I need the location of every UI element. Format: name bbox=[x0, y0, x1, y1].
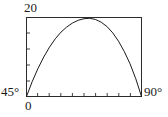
x-min-label: 45° bbox=[1, 85, 19, 98]
x-max-label: 90° bbox=[144, 85, 162, 98]
figure-canvas: 20 45° 90° 0 bbox=[0, 0, 168, 117]
plot-frame bbox=[26, 17, 142, 97]
origin-label: 0 bbox=[25, 99, 32, 112]
y-max-label: 20 bbox=[24, 1, 37, 14]
